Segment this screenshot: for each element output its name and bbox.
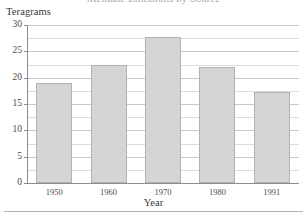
plot-area: 051015202530 [27, 25, 299, 183]
bar-1960 [91, 65, 127, 184]
x-axis-title: Year [0, 197, 307, 209]
gridline-major [27, 25, 299, 26]
y-tick-label: 10 [13, 126, 23, 136]
x-tick-label-1980: 1980 [209, 188, 226, 197]
bar-chart-figure: Methane Emissions by Source Teragrams 05… [0, 0, 307, 214]
y-axis-title: Teragrams [6, 6, 51, 18]
y-tick-label: 30 [13, 20, 23, 30]
y-axis-line [27, 25, 28, 184]
x-tick-label-1950: 1950 [46, 188, 63, 197]
cropped-title-text: Methane Emissions by Source [87, 0, 221, 4]
y-tick-label: 20 [13, 73, 23, 83]
y-tick-label: 0 [17, 178, 22, 188]
y-tick-label: 15 [13, 99, 23, 109]
x-tick-label-1960: 1960 [100, 188, 117, 197]
y-tick-label: 5 [17, 152, 22, 162]
bar-1950 [36, 83, 72, 183]
bottom-divider [4, 211, 303, 212]
bar-1980 [199, 67, 235, 183]
bar-1991 [254, 92, 290, 183]
x-tick-label-1970: 1970 [155, 188, 172, 197]
x-axis-line [27, 183, 299, 184]
x-tick-label-1991: 1991 [263, 188, 280, 197]
bar-1970 [145, 37, 181, 183]
y-tick-label: 25 [13, 47, 23, 57]
